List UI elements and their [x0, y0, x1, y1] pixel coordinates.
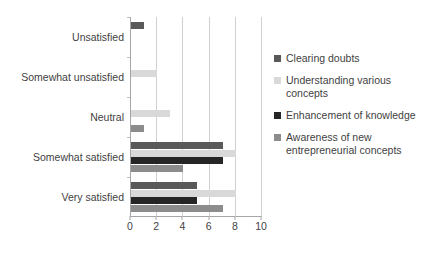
value-tick-mark — [234, 216, 235, 220]
bar — [131, 70, 157, 77]
category-tick — [127, 177, 130, 178]
value-tick-mark — [261, 216, 262, 220]
bar — [131, 22, 144, 29]
value-tick-mark — [182, 216, 183, 220]
bar — [131, 150, 236, 157]
bar — [131, 205, 223, 212]
value-tick-label: 10 — [255, 220, 267, 232]
bar — [131, 190, 236, 197]
legend-swatch-icon — [274, 134, 281, 141]
category-label: Unsatisfied — [72, 31, 124, 43]
gridline — [235, 17, 236, 217]
value-axis-ticks: 0246810 — [130, 220, 262, 240]
gridline — [209, 17, 210, 217]
value-tick-label: 2 — [153, 220, 159, 232]
category-label: Somewhat satisfied — [33, 151, 124, 163]
legend-item-label: Understanding various concepts — [286, 74, 420, 100]
value-tick-label: 6 — [206, 220, 212, 232]
bar — [131, 157, 223, 164]
value-tick-label: 0 — [127, 220, 133, 232]
value-tick-mark — [130, 216, 131, 220]
value-tick-label: 8 — [232, 220, 238, 232]
legend-item[interactable]: Understanding various concepts — [274, 74, 420, 100]
legend-item-label: Clearing doubts — [286, 52, 360, 65]
value-tick-mark — [208, 216, 209, 220]
category-tick — [127, 97, 130, 98]
category-tick — [127, 137, 130, 138]
legend-swatch-icon — [274, 112, 281, 119]
value-tick-label: 4 — [179, 220, 185, 232]
gridline — [261, 17, 262, 217]
bar — [131, 197, 197, 204]
value-tick-mark — [156, 216, 157, 220]
legend-item[interactable]: Clearing doubts — [274, 52, 420, 65]
bar-chart: UnsatisfiedSomewhat unsatisfiedNeutralSo… — [0, 0, 424, 257]
legend-swatch-icon — [274, 77, 281, 84]
bar — [131, 142, 223, 149]
bar — [131, 182, 197, 189]
category-axis-line — [130, 216, 262, 217]
plot-area — [130, 17, 262, 217]
category-label: Very satisfied — [62, 191, 124, 203]
bar — [131, 165, 183, 172]
legend-item-label: Awareness of new entrepreneurial concept… — [286, 131, 420, 157]
category-axis: UnsatisfiedSomewhat unsatisfiedNeutralSo… — [0, 0, 124, 257]
chart-legend: Clearing doubtsUnderstanding various con… — [274, 52, 420, 166]
category-label: Neutral — [90, 111, 124, 123]
legend-item[interactable]: Awareness of new entrepreneurial concept… — [274, 131, 420, 157]
legend-item-label: Enhancement of knowledge — [286, 109, 416, 122]
legend-swatch-icon — [274, 55, 281, 62]
category-label: Somewhat unsatisfied — [21, 71, 124, 83]
bar — [131, 110, 170, 117]
category-tick — [127, 57, 130, 58]
legend-item[interactable]: Enhancement of knowledge — [274, 109, 420, 122]
category-tick — [127, 17, 130, 18]
bar — [131, 125, 144, 132]
